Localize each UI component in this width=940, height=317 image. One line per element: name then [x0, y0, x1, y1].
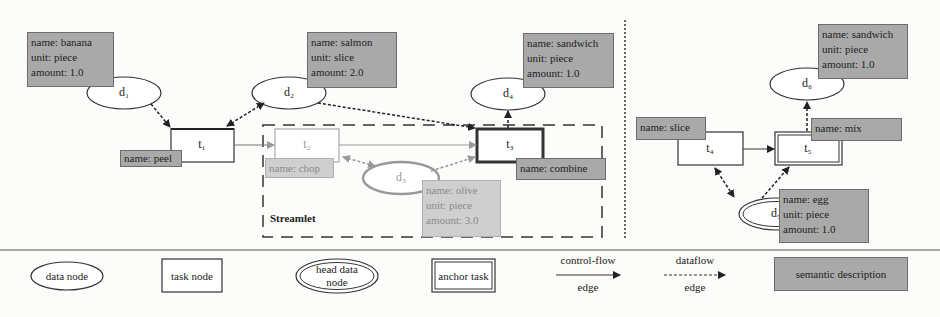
legend-control-flow-top: control-flow — [548, 254, 628, 267]
legend-head-line1: head data — [300, 263, 374, 276]
legend-dataflow-bottom: edge — [655, 281, 735, 294]
dataflow-edge-t1-d2 — [227, 103, 264, 126]
semantic-name: name: banana — [31, 35, 110, 50]
t1-label: t₁ — [182, 137, 222, 152]
semantic-t4: name: slice — [636, 117, 706, 140]
dataflow-edge-d2-t3 — [318, 103, 475, 128]
semantic-unit: unit: piece — [527, 51, 610, 66]
semantic-name: name: sandwich — [822, 27, 904, 42]
semantic-name: name: sandwich — [527, 36, 610, 51]
semantic-d1: name: banana unit: piece amount: 1.0 — [27, 32, 114, 87]
semantic-d3: name: olive unit: piece amount: 3.0 — [422, 180, 501, 237]
t4-label: t₄ — [690, 141, 730, 156]
d3-label: d₃ — [381, 170, 421, 185]
semantic-d5: name: egg unit: piece amount: 1.0 — [779, 189, 869, 243]
semantic-unit: unit: piece — [31, 50, 110, 65]
legend-task-node-label: task node — [162, 270, 222, 283]
semantic-unit: unit: slice — [311, 50, 393, 65]
semantic-t3: name: combine — [516, 158, 606, 180]
dataflow-edge-d3-t3 — [431, 157, 475, 171]
semantic-unit: unit: piece — [426, 198, 497, 213]
semantic-t5: name: mix — [811, 118, 902, 141]
semantic-amount: amount: 1.0 — [783, 222, 865, 237]
dataflow-edge-d1-t1 — [151, 104, 170, 127]
semantic-t1: name: peel — [120, 150, 182, 167]
legend-data-node-label: data node — [31, 270, 103, 283]
legend-anchor-task-label: anchor task — [432, 270, 495, 283]
semantic-amount: amount: 1.0 — [31, 65, 110, 80]
semantic-d4: name: sandwich unit: piece amount: 1.0 — [523, 33, 614, 88]
semantic-unit: unit: piece — [822, 42, 904, 57]
t3-label: t₃ — [490, 137, 530, 152]
d4-label: d₄ — [488, 86, 528, 101]
semantic-name: name: egg — [783, 192, 865, 207]
legend-semantic-description: semantic description — [774, 257, 908, 291]
semantic-amount: amount: 2.0 — [311, 65, 393, 80]
semantic-name: name: olive — [426, 183, 497, 198]
semantic-d6: name: sandwich unit: piece amount: 1.0 — [818, 24, 908, 79]
semantic-t2: name: chop — [265, 158, 334, 178]
semantic-d2: name: salmon unit: slice amount: 2.0 — [307, 32, 397, 88]
semantic-amount: amount: 1.0 — [527, 66, 610, 81]
semantic-name: name: salmon — [311, 35, 393, 50]
legend-head-line2: node — [300, 276, 374, 289]
d1-label: d₁ — [104, 85, 144, 100]
d2-label: d₂ — [269, 85, 309, 100]
semantic-amount: amount: 1.0 — [822, 57, 904, 72]
dataflow-edge-t2-d3 — [343, 157, 375, 166]
streamlet-label: Streamlet — [270, 212, 316, 224]
t2-label: t₂ — [287, 137, 327, 152]
semantic-amount: amount: 3.0 — [426, 213, 497, 228]
legend-dataflow-top: dataflow — [655, 254, 735, 267]
legend-control-flow-bottom: edge — [548, 281, 628, 294]
legend-head-data-node-label: head data node — [300, 263, 374, 289]
dataflow-edge-t4-d5 — [715, 168, 734, 197]
t5-label: t₅ — [788, 141, 828, 156]
semantic-unit: unit: piece — [783, 207, 865, 222]
